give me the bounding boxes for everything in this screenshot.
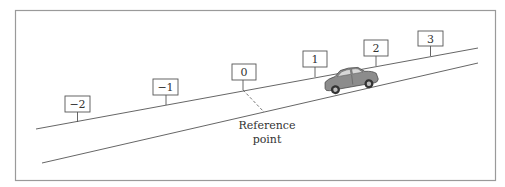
sign-label: −1 — [157, 81, 173, 94]
sign-minus-2: −2 — [65, 96, 90, 122]
position-diagram: −2 −1 0 1 2 3 — [0, 0, 505, 187]
sign-1: 1 — [303, 51, 327, 77]
reference-label-line2: point — [253, 133, 282, 146]
car-icon — [322, 63, 379, 96]
sign-label: 2 — [373, 42, 380, 55]
sign-3: 3 — [418, 31, 443, 56]
sign-2: 2 — [364, 40, 388, 66]
road-upper-edge — [36, 48, 478, 129]
sign-0: 0 — [232, 64, 256, 90]
sign-label: 1 — [312, 53, 319, 66]
sign-label: −2 — [69, 98, 85, 111]
sign-label: 3 — [427, 33, 434, 46]
road-lower-edge — [42, 63, 478, 163]
sign-minus-1: −1 — [153, 79, 178, 105]
reference-label-line1: Reference — [239, 119, 296, 132]
sign-label: 0 — [241, 66, 248, 79]
reference-dashed-line — [243, 90, 264, 112]
